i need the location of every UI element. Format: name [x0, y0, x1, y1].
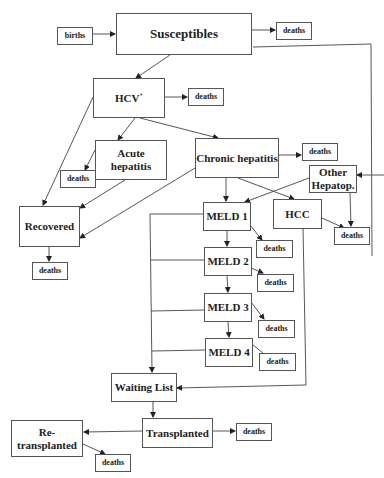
deaths-meld4-node: deaths — [259, 353, 296, 371]
retransplanted-node: Re-transplanted — [11, 420, 83, 457]
chronic-hepatitis-node: Chronic hepatitis — [195, 138, 279, 178]
meld3-node: MELD 3 — [204, 293, 252, 322]
meld4-node: MELD 4 — [205, 338, 253, 367]
births-node: births — [57, 27, 93, 45]
meld1-node: MELD 1 — [203, 202, 251, 231]
waiting-list-node: Waiting List — [111, 373, 177, 402]
deaths-hcv-node: deaths — [188, 88, 224, 106]
deaths-retransplanted-node: deaths — [95, 454, 131, 472]
other-hepatop-node: Other Hepatop. — [309, 165, 357, 193]
acute-hepatitis-node: Acute hepatitis — [95, 140, 167, 180]
transplanted-node: Transplanted — [142, 418, 213, 448]
deaths-recovered-node: deaths — [32, 262, 68, 280]
deaths-meld3-node: deaths — [258, 320, 295, 338]
meld2-node: MELD 2 — [204, 247, 252, 276]
recovered-node: Recovered — [19, 206, 80, 247]
deaths-meld1-node: deaths — [256, 240, 293, 258]
susceptibles-node: Susceptibles — [116, 13, 252, 55]
deaths-acute-node: deaths — [60, 170, 96, 188]
deaths-transplanted-node: deaths — [236, 423, 272, 441]
deaths-chronic-node: deaths — [302, 143, 338, 161]
deaths-hcc-node: deaths — [334, 227, 370, 245]
deaths-meld2-node: deaths — [257, 274, 294, 292]
hcv-node: HCV+ — [93, 78, 165, 118]
hcc-node: HCC — [273, 199, 322, 229]
deaths-susceptibles-node: deaths — [276, 22, 312, 40]
hcv-label: HCV+ — [115, 92, 143, 105]
